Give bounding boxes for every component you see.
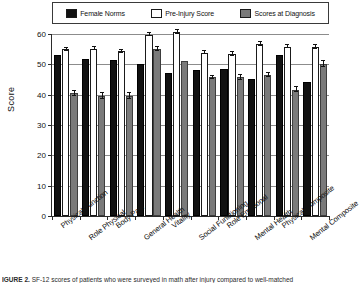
bar-series-layer xyxy=(52,34,329,216)
legend-label-female-norms: Female Norms xyxy=(80,10,125,17)
error-cap-upper xyxy=(155,46,159,47)
error-cap-lower xyxy=(155,50,159,51)
bar xyxy=(237,77,244,216)
bar xyxy=(292,90,299,216)
legend-item-scores-at-diagnosis: Scores at Diagnosis xyxy=(240,9,314,18)
error-cap-upper xyxy=(294,86,298,87)
error-cap-upper xyxy=(147,32,151,33)
error-cap-upper xyxy=(72,90,76,91)
x-tick xyxy=(52,216,53,220)
bar xyxy=(145,35,152,216)
error-cap-upper xyxy=(64,47,68,48)
bar xyxy=(284,47,291,216)
bar xyxy=(70,93,77,216)
bar xyxy=(312,47,319,216)
figure-caption: IGURE 2. SF-12 scores of patients who we… xyxy=(2,276,335,283)
error-cap-upper xyxy=(127,92,131,93)
error-cap-upper xyxy=(285,44,289,45)
error-cap-lower xyxy=(285,47,289,48)
y-tick-label-50: 50 xyxy=(37,60,46,69)
bar xyxy=(54,55,61,216)
error-cap-lower xyxy=(64,50,68,51)
legend-swatch-pre-injury-score xyxy=(151,9,162,18)
legend-item-pre-injury-score: Pre-Injury Score xyxy=(151,9,214,18)
error-cap-upper xyxy=(238,74,242,75)
y-tick-label-0: 0 xyxy=(42,212,46,221)
bar-group xyxy=(52,34,80,216)
bar xyxy=(181,61,188,216)
bar xyxy=(118,51,125,216)
error-cap-upper xyxy=(202,50,206,51)
error-cap-lower xyxy=(119,52,123,53)
legend-swatch-female-norms xyxy=(66,9,77,18)
legend-label-scores-at-diagnosis: Scores at Diagnosis xyxy=(254,10,314,17)
error-cap-upper xyxy=(230,51,234,52)
bar-group xyxy=(246,34,274,216)
error-cap-lower xyxy=(147,35,151,36)
figure-caption-text: SF-12 scores of patients who were survey… xyxy=(32,276,294,283)
bar xyxy=(126,96,133,216)
error-cap-lower xyxy=(72,95,76,96)
error-cap-upper xyxy=(92,46,96,47)
figure-caption-label: IGURE 2. xyxy=(2,276,30,283)
error-cap-lower xyxy=(127,98,131,99)
error-cap-lower xyxy=(100,98,104,99)
error-cap-lower xyxy=(258,45,262,46)
error-cap-upper xyxy=(100,92,104,93)
error-cap-upper xyxy=(175,29,179,30)
bar xyxy=(303,82,310,216)
y-tick-label-30: 30 xyxy=(37,121,46,130)
error-cap-lower xyxy=(230,55,234,56)
legend-item-female-norms: Female Norms xyxy=(66,9,125,18)
error-cap-upper xyxy=(313,44,317,45)
bar xyxy=(276,55,283,216)
error-cap-lower xyxy=(175,33,179,34)
y-axis-title: Score xyxy=(6,86,16,112)
bar-group xyxy=(163,34,191,216)
error-cap-lower xyxy=(321,66,325,67)
bar-group xyxy=(274,34,302,216)
bar xyxy=(220,69,227,216)
bar-group xyxy=(191,34,219,216)
bar xyxy=(62,49,69,216)
error-cap-upper xyxy=(210,75,214,76)
bar xyxy=(110,60,117,216)
y-tick-label-20: 20 xyxy=(37,151,46,160)
x-axis-category-labels: Physical FunctionRole PhysicalBody PainG… xyxy=(0,221,335,281)
error-cap-lower xyxy=(92,49,96,50)
bar xyxy=(228,54,235,216)
bar xyxy=(137,64,144,216)
bar-group xyxy=(218,34,246,216)
y-tick-label-60: 60 xyxy=(37,30,46,39)
error-cap-upper xyxy=(266,72,270,73)
bar xyxy=(256,44,263,216)
error-cap-lower xyxy=(238,79,242,80)
bar xyxy=(193,70,200,217)
bar xyxy=(82,59,89,216)
legend-swatch-scores-at-diagnosis xyxy=(240,9,251,18)
bar xyxy=(90,49,97,216)
bar xyxy=(201,53,208,216)
bar xyxy=(153,49,160,216)
bar xyxy=(173,32,180,216)
error-cap-lower xyxy=(210,78,214,79)
error-cap-upper xyxy=(258,41,262,42)
error-cap-lower xyxy=(294,91,298,92)
error-cap-lower xyxy=(202,53,206,54)
error-cap-upper xyxy=(321,60,325,61)
error-cap-upper xyxy=(119,49,123,50)
plot-area: 6050403020100 xyxy=(51,34,329,217)
y-tick-label-10: 10 xyxy=(37,181,46,190)
error-cap-lower xyxy=(266,76,270,77)
error-cap-lower xyxy=(313,48,317,49)
bar xyxy=(209,77,216,216)
legend-label-pre-injury-score: Pre-Injury Score xyxy=(165,10,214,17)
bar-group xyxy=(107,34,135,216)
bar-group xyxy=(135,34,163,216)
y-tick-label-40: 40 xyxy=(37,90,46,99)
chart-legend: Female Norms Pre-Injury Score Scores at … xyxy=(52,2,329,24)
bar xyxy=(248,79,255,216)
bar xyxy=(165,73,172,216)
